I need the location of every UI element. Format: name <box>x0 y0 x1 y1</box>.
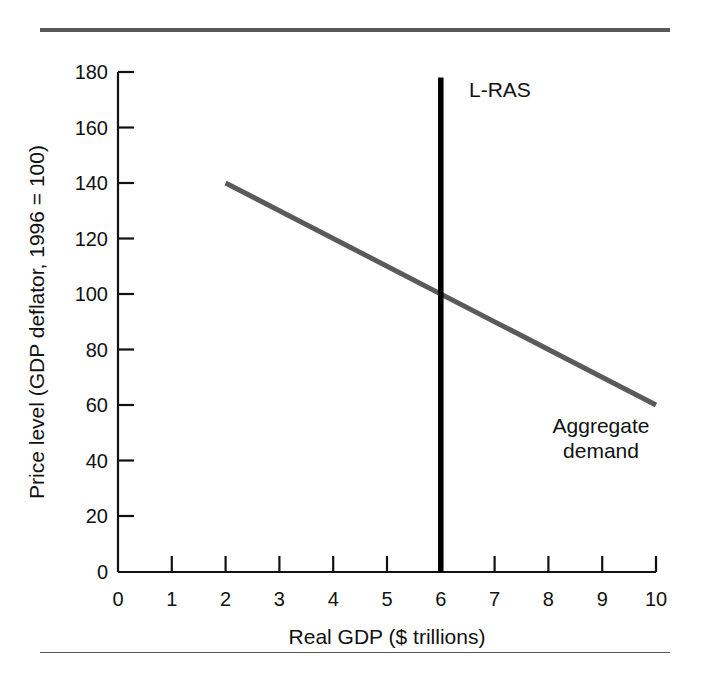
y-tick-label: 60 <box>86 394 108 416</box>
x-tick-label: 3 <box>274 588 285 610</box>
x-tick-label: 10 <box>645 588 667 610</box>
lras-label: L-RAS <box>469 78 531 101</box>
y-axis-title: Price level (GDP deflator, 1996 = 100) <box>25 145 48 499</box>
y-axis-ticks <box>118 72 134 516</box>
bottom-rule-divider <box>40 652 670 653</box>
y-tick-label: 160 <box>75 117 108 139</box>
x-axis-title: Real GDP ($ trillions) <box>289 625 486 648</box>
y-tick-label: 40 <box>86 450 108 472</box>
x-tick-label: 1 <box>166 588 177 610</box>
x-tick-label: 2 <box>220 588 231 610</box>
y-tick-label: 100 <box>75 283 108 305</box>
aggregate-demand-label-line1: Aggregate <box>553 414 650 437</box>
x-tick-label: 7 <box>489 588 500 610</box>
y-tick-label: 120 <box>75 228 108 250</box>
y-tick-label: 80 <box>86 339 108 361</box>
y-tick-label: 0 <box>97 561 108 583</box>
figure-container: 180 160 140 120 100 80 60 40 20 0 0 1 2 … <box>0 0 708 676</box>
aggregate-demand-label-line2: demand <box>563 439 639 462</box>
y-axis-tick-labels: 180 160 140 120 100 80 60 40 20 0 <box>75 61 108 583</box>
x-axis-ticks <box>172 556 656 572</box>
x-tick-label: 0 <box>112 588 123 610</box>
chart-plot-area: 180 160 140 120 100 80 60 40 20 0 0 1 2 … <box>0 0 708 676</box>
y-tick-label: 20 <box>86 505 108 527</box>
x-tick-label: 5 <box>381 588 392 610</box>
x-tick-label: 9 <box>597 588 608 610</box>
y-tick-label: 180 <box>75 61 108 83</box>
x-tick-label: 4 <box>328 588 339 610</box>
y-tick-label: 140 <box>75 172 108 194</box>
x-tick-label: 8 <box>543 588 554 610</box>
x-axis-tick-labels: 0 1 2 3 4 5 6 7 8 9 10 <box>112 588 667 610</box>
x-tick-label: 6 <box>435 588 446 610</box>
